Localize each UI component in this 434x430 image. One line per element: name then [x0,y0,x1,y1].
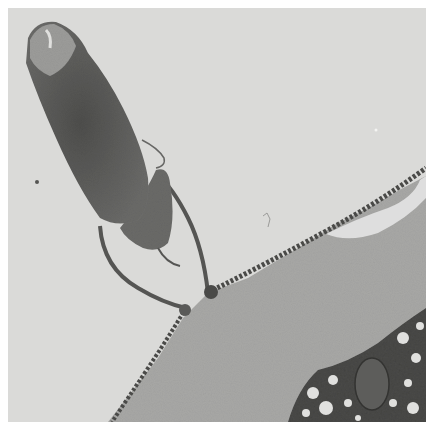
image-frame [0,0,434,430]
micrograph [8,8,426,422]
debris-speck [35,180,39,184]
junction-node [204,285,218,299]
junction-node [179,304,191,316]
mitochondrion [355,358,389,410]
micrograph-canvas [8,8,426,422]
debris-speck [375,129,378,132]
